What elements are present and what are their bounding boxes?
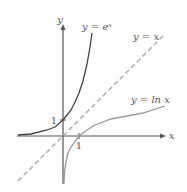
x-axis-arrow-icon bbox=[160, 134, 166, 139]
ln-curve-label: y = ln x bbox=[130, 94, 170, 105]
exp-curve-label: y = eˣ bbox=[81, 21, 112, 32]
identity-curve-label: y = x bbox=[132, 31, 159, 42]
x-axis-label: x bbox=[169, 130, 175, 141]
y-axis-label: y bbox=[56, 14, 63, 25]
y-tick-label: 1 bbox=[51, 115, 57, 126]
graph-figure: y x 1 1 y = eˣ y = x y = ln x bbox=[0, 0, 187, 192]
x-tick-label: 1 bbox=[76, 140, 82, 151]
curve-identity bbox=[18, 36, 163, 181]
y-axis bbox=[61, 24, 66, 184]
x-axis bbox=[17, 134, 166, 139]
